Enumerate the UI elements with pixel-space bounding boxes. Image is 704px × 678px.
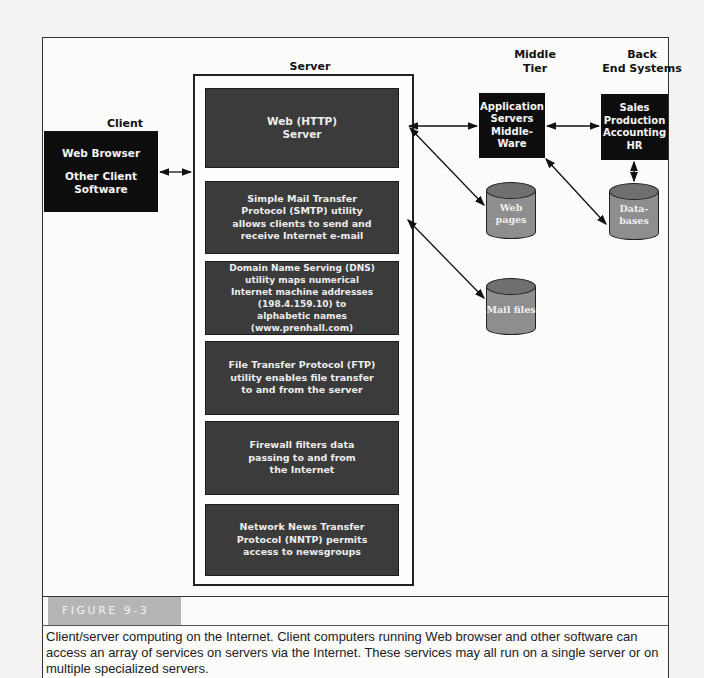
figure-caption: Client/server computing on the Internet.… — [46, 629, 661, 677]
caption-divider — [42, 625, 668, 626]
figure-label: FIGURE 9-3 — [48, 597, 181, 625]
